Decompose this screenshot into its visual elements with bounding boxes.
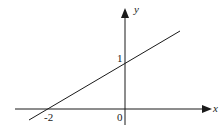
y-intercept-label: 1 [117,53,123,64]
origin-label: 0 [117,112,123,123]
y-axis-label: y [134,4,139,15]
function-line [29,31,180,120]
y-axis-arrow-icon [121,8,129,18]
x-intercept-label: -2 [44,112,53,123]
line-graph [0,0,221,138]
x-axis-arrow-icon [202,105,212,113]
x-axis-label: x [213,103,218,114]
